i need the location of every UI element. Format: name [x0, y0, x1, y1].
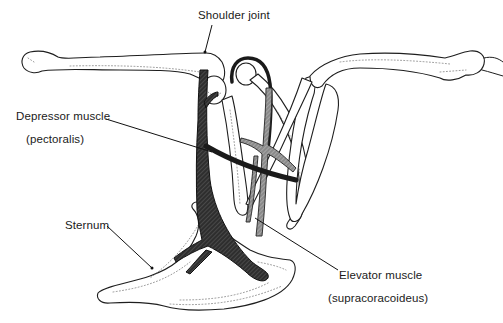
depressor-leader [106, 119, 212, 152]
sternum-marker [151, 267, 154, 270]
bird-flight-muscle-diagram [0, 0, 503, 323]
label-depressor-muscle: Depressor muscle [16, 111, 110, 123]
sternum-bone [98, 202, 296, 310]
label-elevator-muscle-sub: (supracoracoideus) [328, 293, 428, 305]
label-shoulder-joint: Shoulder joint [198, 10, 270, 22]
shoulder-joint-leader [205, 25, 212, 52]
shoulder-joint-marker [204, 51, 207, 54]
label-elevator-muscle: Elevator muscle [339, 270, 422, 282]
label-sternum: Sternum [65, 220, 109, 232]
sternum-leader [107, 226, 152, 268]
left-humerus [22, 51, 225, 84]
label-depressor-muscle-sub: (pectoralis) [26, 134, 84, 146]
right-humerus [310, 51, 503, 88]
